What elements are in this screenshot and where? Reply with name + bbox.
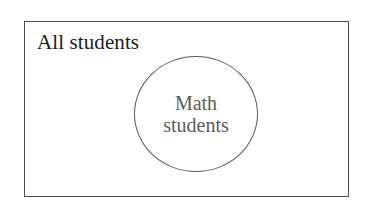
diagram-canvas: All students Math students	[0, 0, 381, 206]
subset-label: Math students	[163, 92, 229, 137]
universal-set-label: All students	[37, 31, 139, 53]
subset-label-line-1: Math	[175, 92, 217, 114]
subset-circle: Math students	[134, 56, 258, 172]
subset-label-line-2: students	[163, 114, 229, 136]
